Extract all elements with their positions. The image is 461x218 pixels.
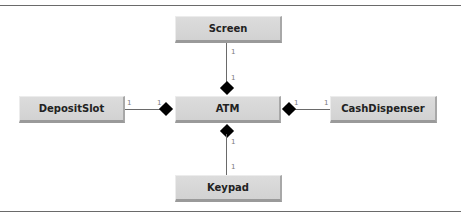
class-box-screen[interactable]: Screen [175, 16, 282, 43]
multiplicity-screen-whole: 1 [231, 74, 235, 82]
class-box-cash-dispenser[interactable]: CashDispenser [330, 96, 437, 123]
class-box-atm[interactable]: ATM [175, 96, 281, 123]
class-name-keypad: Keypad [207, 182, 249, 193]
association-line-keypad [226, 134, 227, 175]
class-name-cash-dispenser: CashDispenser [341, 103, 425, 114]
class-box-keypad[interactable]: Keypad [175, 175, 282, 202]
association-line-deposit-slot [125, 109, 163, 110]
class-name-screen: Screen [209, 23, 248, 34]
association-line-screen [226, 43, 227, 85]
multiplicity-deposit-part: 1 [127, 99, 131, 107]
multiplicity-keypad-whole: 1 [231, 138, 235, 146]
bottom-rule [0, 211, 461, 212]
multiplicity-cash-whole: 1 [294, 99, 298, 107]
composition-diamond-bottom [220, 124, 234, 138]
class-box-deposit-slot[interactable]: DepositSlot [19, 96, 125, 123]
multiplicity-cash-part: 1 [324, 99, 328, 107]
class-name-atm: ATM [216, 103, 240, 114]
class-name-deposit-slot: DepositSlot [39, 103, 105, 114]
multiplicity-keypad-part: 1 [231, 163, 235, 171]
top-rule [0, 5, 461, 6]
multiplicity-screen-part: 1 [231, 48, 235, 56]
composition-diamond-top [220, 81, 234, 95]
association-line-cash-dispenser [292, 109, 330, 110]
